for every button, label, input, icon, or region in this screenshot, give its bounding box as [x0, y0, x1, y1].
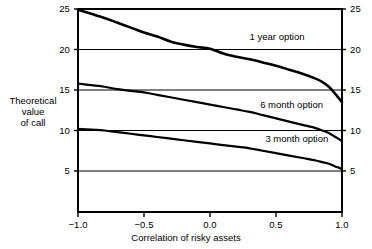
- y-axis-title-line-2: value: [2, 106, 64, 117]
- y-axis-tick-label-left: 25: [44, 4, 70, 14]
- chart-figure: Theoretical value of call Correlation of…: [0, 0, 372, 249]
- x-axis-tick-label: −0.5: [127, 220, 161, 230]
- y-axis-tick-label-right: 20: [350, 45, 372, 55]
- x-axis-tick-label: 1.0: [325, 220, 359, 230]
- y-axis-tick-label-left: 20: [44, 45, 70, 55]
- x-axis-tick-label: 0.5: [259, 220, 293, 230]
- y-axis-title: Theoretical value of call: [2, 95, 64, 128]
- y-axis-tick-label-left: 15: [44, 85, 70, 95]
- y-axis-tick-label-right: 15: [350, 85, 372, 95]
- y-axis-tick-label-left: 5: [44, 166, 70, 176]
- x-axis-tick-label: −1.0: [61, 220, 95, 230]
- x-axis-tick-label: 0.0: [193, 220, 227, 230]
- y-axis-title-line-1: Theoretical: [2, 95, 64, 106]
- y-axis-tick-label-right: 5: [350, 166, 372, 176]
- series-label: 3 month option: [265, 133, 328, 144]
- y-axis-tick-label-right: 10: [350, 126, 372, 136]
- series-label: 1 year option: [250, 31, 305, 42]
- y-axis-tick-label-right: 25: [350, 4, 372, 14]
- y-axis-tick-label-left: 10: [44, 126, 70, 136]
- x-axis-title: Correlation of risky assets: [0, 232, 372, 243]
- series-label: 6 month option: [260, 99, 323, 110]
